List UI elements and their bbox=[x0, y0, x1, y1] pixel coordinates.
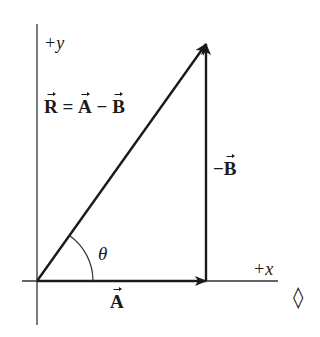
equation-label: R = A − B bbox=[44, 97, 125, 116]
vector-r-arrow bbox=[37, 44, 206, 281]
y-axis-label: +y bbox=[44, 34, 64, 52]
vector-r-symbol: R bbox=[44, 97, 58, 116]
vector-a-symbol: A bbox=[78, 97, 92, 116]
angle-theta-label: θ bbox=[98, 244, 107, 263]
negative-sign: − bbox=[213, 158, 224, 179]
vector-b-symbol: B bbox=[112, 97, 125, 116]
vector-a-letter: A bbox=[110, 292, 124, 311]
angle-theta-arc bbox=[70, 235, 94, 281]
diamond-icon: ◊ bbox=[293, 287, 303, 308]
vector-neg-b-label: −B bbox=[213, 159, 237, 178]
x-axis-label: +x bbox=[253, 260, 273, 278]
minus-sign: − bbox=[92, 96, 112, 117]
vector-a-label: A bbox=[110, 292, 124, 311]
equals-sign: = bbox=[58, 96, 78, 117]
vector-b-letter: B bbox=[224, 159, 237, 178]
